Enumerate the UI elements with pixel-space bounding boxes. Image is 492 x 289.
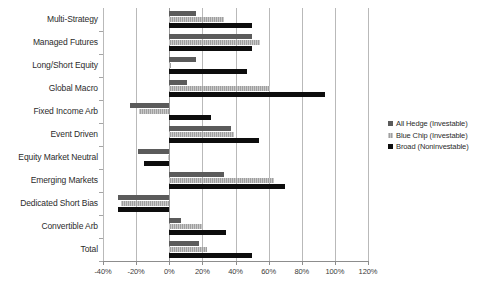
- bar-1: [169, 247, 207, 252]
- category-label: Total: [81, 244, 98, 254]
- legend-swatch-icon: [388, 121, 393, 126]
- grid-line: [103, 8, 104, 261]
- x-axis-tick: [236, 261, 237, 265]
- category-label: Managed Futures: [33, 37, 98, 47]
- x-axis-tick: [269, 261, 270, 265]
- category-label: Convertible Arb: [41, 221, 98, 231]
- x-axis-tick: [169, 261, 170, 265]
- category-label: Long/Short Equity: [32, 60, 98, 70]
- bar-2: [144, 161, 169, 166]
- bar-2: [169, 230, 225, 235]
- bar-1: [169, 132, 234, 137]
- bar-2: [169, 23, 252, 28]
- legend-item: Broad (Noninvestable): [388, 141, 469, 153]
- bar-2: [169, 92, 325, 97]
- bar-0: [169, 80, 187, 85]
- category-axis-tick: [99, 215, 103, 216]
- category-label: Equity Market Neutral: [18, 152, 98, 162]
- legend-label: Broad (Noninvestable): [396, 141, 469, 153]
- bar-1: [168, 155, 170, 160]
- category-label: Emerging Markets: [31, 175, 98, 185]
- grid-line: [269, 8, 270, 261]
- legend-label: Blue Chip (Investable): [396, 130, 468, 142]
- x-axis-tick: [368, 261, 369, 265]
- category-axis-tick: [99, 169, 103, 170]
- category-axis-tick: [99, 123, 103, 124]
- bar-0: [169, 126, 230, 131]
- bar-1: [121, 201, 169, 206]
- bar-1: [169, 224, 202, 229]
- category-axis-tick: [99, 77, 103, 78]
- legend-swatch-icon: [388, 144, 393, 149]
- bar-1: [169, 17, 224, 22]
- category-axis-tick: [99, 238, 103, 239]
- bar-0: [169, 34, 252, 39]
- grid-line: [136, 8, 137, 261]
- category-axis-tick: [99, 54, 103, 55]
- category-axis-tick: [99, 146, 103, 147]
- bar-1: [139, 109, 169, 114]
- bar-0: [138, 149, 169, 154]
- bar-0: [130, 103, 170, 108]
- x-axis-tick: [103, 261, 104, 265]
- x-axis-tick-label: 120%: [348, 267, 388, 276]
- grid-line: [368, 8, 369, 261]
- bar-0: [169, 172, 224, 177]
- x-axis-tick: [202, 261, 203, 265]
- bar-2: [169, 253, 252, 258]
- bar-0: [169, 11, 196, 16]
- legend-item: Blue Chip (Investable): [388, 130, 469, 142]
- bar-2: [118, 207, 169, 212]
- category-label: Fixed Income Arb: [33, 106, 98, 116]
- x-axis-tick: [136, 261, 137, 265]
- chart-legend: All Hedge (Investable)Blue Chip (Investa…: [388, 118, 469, 153]
- category-axis: Multi-StrategyManaged FuturesLong/Short …: [0, 8, 98, 261]
- legend-label: All Hedge (Investable): [396, 118, 468, 130]
- bar-0: [118, 195, 169, 200]
- category-label: Dedicated Short Bias: [20, 198, 98, 208]
- bar-1: [169, 86, 270, 91]
- bar-1: [169, 178, 273, 183]
- bar-2: [169, 46, 252, 51]
- bar-0: [169, 218, 181, 223]
- bar-2: [169, 115, 210, 120]
- legend-swatch-icon: [388, 133, 393, 138]
- x-axis-tick: [302, 261, 303, 265]
- bar-1: [169, 63, 171, 68]
- category-label: Global Macro: [49, 83, 98, 93]
- category-axis-tick: [99, 100, 103, 101]
- bar-0: [169, 241, 199, 246]
- bar-1: [169, 40, 260, 45]
- category-label: Multi-Strategy: [47, 14, 98, 24]
- bar-2: [169, 184, 285, 189]
- grid-line: [302, 8, 303, 261]
- category-axis-tick: [99, 192, 103, 193]
- category-axis-tick: [99, 31, 103, 32]
- bar-2: [169, 69, 247, 74]
- bar-0: [169, 57, 196, 62]
- category-axis-tick: [99, 261, 103, 262]
- category-label: Event Driven: [51, 129, 98, 139]
- x-axis-tick: [335, 261, 336, 265]
- grid-line: [335, 8, 336, 261]
- bar-chart: Multi-StrategyManaged FuturesLong/Short …: [0, 0, 492, 289]
- bar-2: [169, 138, 258, 143]
- legend-item: All Hedge (Investable): [388, 118, 469, 130]
- plot-area: [103, 8, 368, 261]
